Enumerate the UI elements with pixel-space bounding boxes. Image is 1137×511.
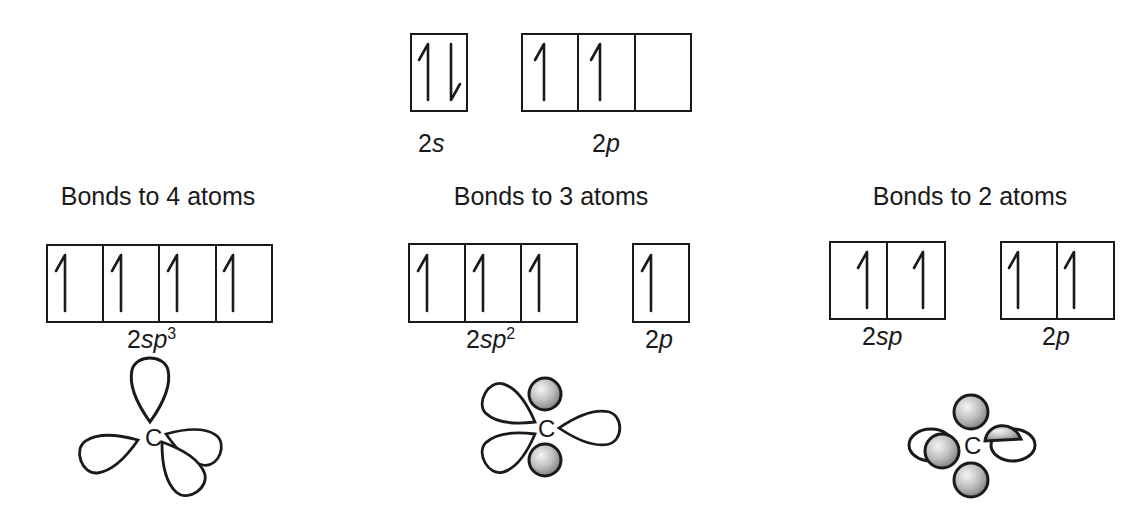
sp-linear-orbitals: C	[909, 395, 1035, 497]
panel-title-sp: Bonds to 2 atoms	[873, 182, 1068, 210]
p-orbital-lobe-icon	[529, 444, 561, 476]
spin-up-arrow-icon	[535, 44, 544, 100]
ground-state-2s-box	[411, 34, 467, 111]
spin-up-arrow-icon	[591, 44, 600, 100]
spin-up-arrow-icon	[418, 255, 427, 311]
sp3-orbital-box	[47, 245, 272, 322]
orbital-lobe-icon	[75, 423, 144, 477]
spin-up-arrow-icon	[168, 255, 177, 311]
sp-label: 2sp	[862, 322, 902, 350]
carbon-atom-label: C	[964, 432, 981, 459]
carbon-atom-label: C	[538, 415, 555, 442]
panel-title-sp3: Bonds to 4 atoms	[61, 182, 256, 210]
orbital-lobe-icon	[131, 358, 169, 422]
sp2-p-orbital-box	[633, 244, 689, 322]
spin-up-arrow-icon	[474, 255, 483, 311]
sp2-trigonal-orbitals: C	[476, 378, 620, 479]
spin-up-arrow-icon	[1065, 252, 1074, 308]
spin-up-arrow-icon	[914, 252, 923, 308]
p-orbital-lobe-icon	[954, 463, 988, 497]
sp-orbital-box	[830, 242, 945, 319]
sp3-tetrahedral-orbitals: C	[75, 358, 226, 502]
spin-up-arrow-icon	[56, 255, 65, 311]
orbital-lobe-icon	[559, 411, 620, 445]
p-orbital-lobe-icon	[954, 395, 988, 429]
ground-state-2s-label: 2s	[418, 129, 444, 157]
spin-up-arrow-icon	[530, 255, 539, 311]
ground-state-2p-box	[522, 34, 691, 111]
spin-up-arrow-icon	[224, 255, 233, 311]
spin-down-arrow-icon	[451, 44, 460, 100]
panel-title-sp2: Bonds to 3 atoms	[454, 182, 649, 210]
sp-p-label: 2p	[1042, 322, 1070, 350]
p-orbital-lobe-icon	[529, 378, 561, 410]
sp3-label: 2sp3	[127, 325, 176, 353]
spin-up-arrow-icon	[858, 252, 867, 308]
hybridization-diagram: 2s 2p Bonds to 4 atoms 2sp3 C Bonds to 3…	[0, 0, 1137, 511]
spin-up-arrow-icon	[1009, 252, 1018, 308]
p-orbital-lobe-icon	[925, 434, 959, 468]
spin-up-arrow-icon	[642, 255, 651, 311]
ground-state-2p-label: 2p	[592, 129, 620, 157]
sp2-p-label: 2p	[645, 325, 673, 353]
carbon-atom-label: C	[145, 424, 162, 451]
sp2-orbital-box	[409, 244, 577, 322]
spin-up-arrow-icon	[112, 255, 121, 311]
sp-p-orbital-box	[1001, 242, 1114, 319]
sp2-label: 2sp2	[466, 325, 515, 353]
spin-up-arrow-icon	[419, 44, 428, 100]
